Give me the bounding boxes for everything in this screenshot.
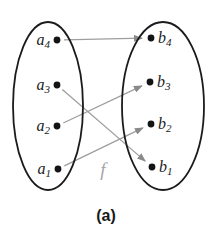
function-label: f xyxy=(100,159,108,180)
element-a4-label: a4 xyxy=(37,31,51,50)
arrow-a3-to-b1 xyxy=(62,90,145,162)
element-b3-dot xyxy=(147,79,154,86)
arrow-a4-to-b4 xyxy=(64,38,142,40)
element-a1-dot xyxy=(55,166,62,173)
element-a4-dot xyxy=(54,37,61,44)
element-a1-label: a1 xyxy=(38,160,52,179)
element-b2-dot xyxy=(148,121,155,128)
arrows-layer xyxy=(62,38,145,166)
element-b4-dot xyxy=(148,35,155,42)
element-a2-label: a2 xyxy=(37,117,51,136)
arrow-a2-to-b3 xyxy=(63,86,142,123)
element-a3-dot xyxy=(54,82,61,89)
element-b2-label: b2 xyxy=(158,115,172,134)
element-b4-label: b4 xyxy=(158,29,172,48)
function-mapping-figure: a4a3a2a1b4b3b2b1 f (a) xyxy=(0,0,212,239)
element-b1-label: b1 xyxy=(159,158,173,177)
caption: (a) xyxy=(96,207,116,224)
element-b3-label: b3 xyxy=(157,73,171,92)
element-a2-dot xyxy=(54,123,61,130)
mapping-diagram: a4a3a2a1b4b3b2b1 f (a) xyxy=(0,0,212,239)
element-b1-dot xyxy=(149,164,156,171)
element-a3-label: a3 xyxy=(37,76,51,95)
